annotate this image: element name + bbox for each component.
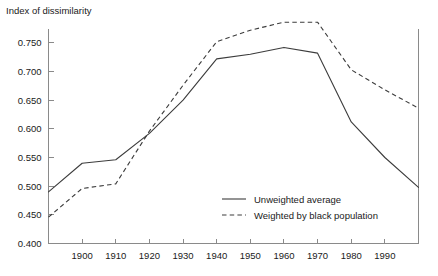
y-axis-tick-label: 0.500 — [18, 181, 42, 192]
x-axis-tick-label: 1940 — [206, 250, 227, 261]
legend-label-unweighted-average: Unweighted average — [254, 194, 341, 205]
x-axis-tick-label: 1950 — [240, 250, 261, 261]
y-axis-tick-label: 0.600 — [18, 123, 42, 134]
y-axis-tick-label: 0.650 — [18, 95, 42, 106]
series-unweighted-average — [49, 47, 419, 191]
y-axis-tick-label: 0.550 — [18, 152, 42, 163]
x-axis-tick-label: 1970 — [307, 250, 328, 261]
y-axis-tick-label: 0.750 — [18, 37, 42, 48]
x-axis-tick-label: 1920 — [139, 250, 160, 261]
x-axis-tick-label: 1960 — [273, 250, 294, 261]
x-axis-ticks: 1900191019201930194019501960197019801990 — [72, 239, 396, 261]
x-axis-tick-label: 1900 — [72, 250, 93, 261]
x-axis-tick-label: 1930 — [172, 250, 193, 261]
legend-label-weighted-by-black-population: Weighted by black population — [254, 210, 378, 221]
y-axis-tick-label: 0.450 — [18, 209, 42, 220]
y-axis-tick-label: 0.700 — [18, 66, 42, 77]
x-axis-tick-label: 1980 — [341, 250, 362, 261]
line-chart: Index of dissimilarity 0.4000.4500.5000.… — [0, 0, 438, 276]
x-axis-tick-label: 1910 — [105, 250, 126, 261]
chart-figure: Index of dissimilarity 0.4000.4500.5000.… — [0, 0, 438, 276]
series-weighted-by-black-population — [49, 22, 419, 217]
chart-legend: Unweighted average Weighted by black pop… — [222, 194, 378, 221]
chart-title: Index of dissimilarity — [6, 5, 92, 16]
x-axis-tick-label: 1990 — [374, 250, 395, 261]
y-axis-tick-label: 0.400 — [18, 238, 42, 249]
